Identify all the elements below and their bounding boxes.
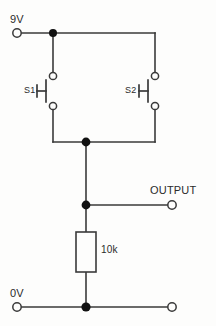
circuit-schematic: 9V S1 S2 OUTPUT 10k 0V xyxy=(0,0,216,326)
junction-supply-rail xyxy=(49,29,57,37)
label-9v: 9V xyxy=(10,14,24,25)
label-0v: 0V xyxy=(10,288,24,299)
circuit-svg xyxy=(0,0,216,326)
label-resistor-value: 10k xyxy=(101,245,118,255)
label-output: OUTPUT xyxy=(150,185,196,196)
terminal-0v-left[interactable] xyxy=(13,303,21,311)
label-s1: S1 xyxy=(24,86,35,95)
terminal-9v[interactable] xyxy=(13,29,21,37)
s2-bottom-terminal-circle xyxy=(151,102,158,109)
s2-top-terminal-circle xyxy=(151,72,158,79)
s1-bottom-terminal-circle xyxy=(49,102,56,109)
junction-output xyxy=(82,201,91,210)
terminal-0v-right[interactable] xyxy=(168,303,176,311)
junction-ground xyxy=(81,302,90,311)
resistor-body xyxy=(76,232,96,272)
terminal-output[interactable] xyxy=(168,201,176,209)
junction-switch-common xyxy=(82,138,91,147)
label-s2: S2 xyxy=(125,86,136,95)
s1-top-terminal-circle xyxy=(49,72,56,79)
